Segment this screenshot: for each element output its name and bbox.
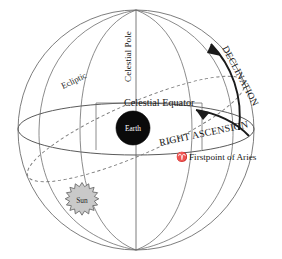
declination-arrowhead-icon: [207, 44, 221, 56]
sun-starburst-icon: Sun: [65, 183, 99, 216]
firstpoint-of-aries-label: Firstpoint of Aries: [189, 152, 257, 162]
celestial-sphere-figure: Earth Sun Celestial Pole Ecliptic Celest…: [0, 0, 282, 259]
declination-label: DECLINATION: [220, 44, 261, 108]
earth-sphere-icon: Earth: [116, 111, 150, 145]
celestial-sphere-diagram: Earth Sun Celestial Pole Ecliptic Celest…: [0, 0, 282, 259]
sun-label: Sun: [76, 196, 88, 205]
celestial-pole-label: Celestial Pole: [123, 31, 133, 82]
right-ascension-arrowhead-icon: [196, 110, 210, 120]
earth-label: Earth: [125, 124, 141, 133]
celestial-equator-label: Celestial Equator: [124, 97, 195, 108]
aries-symbol-icon: ♈: [176, 151, 188, 163]
